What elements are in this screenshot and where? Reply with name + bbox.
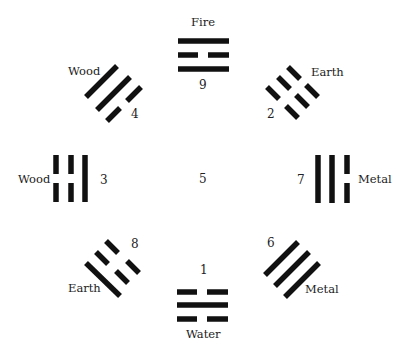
number-1: 1 <box>200 264 208 276</box>
label-metal-bottom-right: Metal <box>305 284 339 296</box>
number-8: 8 <box>131 238 139 250</box>
trigram-water-bottom <box>177 292 228 319</box>
trigram-fire-top <box>178 41 229 69</box>
label-earth-bottom-left: Earth <box>68 283 101 295</box>
trigram-wood-left <box>56 155 85 202</box>
number-7: 7 <box>297 174 305 186</box>
bagua-diagram: Fire 9 Earth 2 Metal 7 Metal 6 Water 1 E… <box>0 0 407 356</box>
label-wood-top-left: Wood <box>68 66 100 78</box>
number-3: 3 <box>100 174 108 186</box>
number-5-center: 5 <box>199 173 207 185</box>
label-metal-right: Metal <box>358 174 392 186</box>
trigram-metal-right <box>318 155 347 203</box>
number-9: 9 <box>199 79 207 91</box>
label-earth-top-right: Earth <box>311 67 344 79</box>
number-6: 6 <box>267 237 275 249</box>
number-2: 2 <box>267 108 275 120</box>
number-4: 4 <box>131 108 139 120</box>
label-fire: Fire <box>191 17 215 29</box>
label-water: Water <box>186 329 221 341</box>
label-wood-left: Wood <box>18 174 50 186</box>
